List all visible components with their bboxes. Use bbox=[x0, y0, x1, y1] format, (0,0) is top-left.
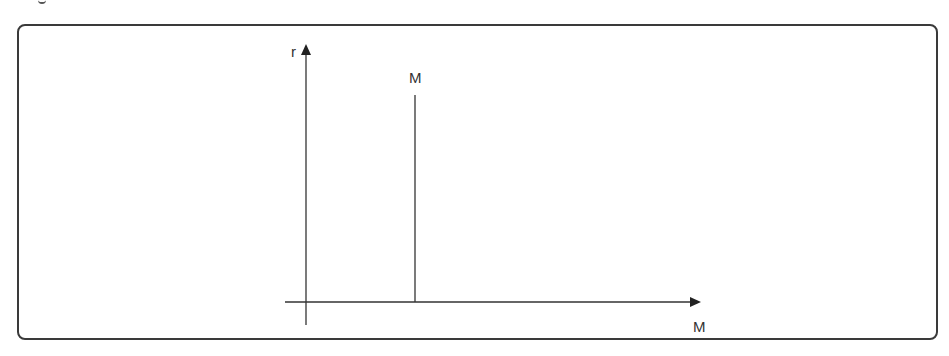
vertical-line-label: M bbox=[409, 70, 422, 85]
axes-diagram bbox=[0, 0, 949, 356]
x-axis-arrow-icon bbox=[690, 297, 701, 307]
x-axis-label: M bbox=[693, 319, 706, 334]
y-axis-label: r bbox=[291, 44, 296, 59]
y-axis-arrow-icon bbox=[301, 44, 311, 55]
